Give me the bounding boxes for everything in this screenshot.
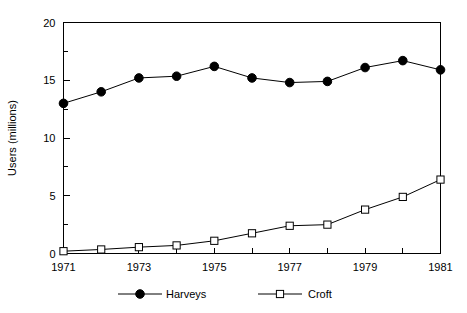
legend-marker	[136, 290, 145, 299]
data-point-marker	[399, 193, 406, 200]
data-point-marker	[211, 237, 218, 244]
x-tick-label: 1973	[127, 261, 151, 273]
x-tick-label: 1977	[277, 261, 301, 273]
legend-item-harveys[interactable]: Harveys	[118, 288, 207, 300]
series-croft	[60, 176, 444, 255]
data-point-marker	[210, 62, 219, 71]
line-chart: 05101520 197119731975197719791981 Users …	[0, 0, 467, 313]
data-point-marker	[60, 248, 67, 255]
data-point-marker	[173, 242, 180, 249]
data-point-marker	[323, 77, 332, 86]
data-point-marker	[437, 176, 444, 183]
series-line	[64, 180, 441, 252]
data-point-marker	[248, 230, 255, 237]
plot-frame	[64, 23, 441, 254]
data-point-marker	[135, 244, 142, 251]
data-point-marker	[248, 74, 257, 83]
chart-legend: HarveysCroft	[118, 288, 332, 300]
data-point-marker	[98, 246, 105, 253]
legend-item-croft[interactable]: Croft	[258, 288, 332, 300]
y-axis: 05101520	[43, 17, 69, 260]
legend-marker	[276, 290, 283, 297]
x-tick-label: 1979	[353, 261, 377, 273]
data-point-marker	[361, 63, 370, 72]
data-point-marker	[362, 206, 369, 213]
data-point-marker	[286, 222, 293, 229]
y-tick-label: 20	[43, 17, 55, 29]
chart-svg: 05101520 197119731975197719791981 Users …	[0, 0, 467, 313]
data-point-marker	[285, 78, 294, 87]
data-point-marker	[324, 221, 331, 228]
y-tick-label: 15	[43, 74, 55, 86]
y-tick-label: 5	[49, 190, 55, 202]
legend-label: Croft	[308, 288, 332, 300]
series-layer	[59, 56, 445, 254]
data-point-marker	[399, 56, 408, 65]
series-harveys	[59, 56, 445, 107]
y-axis-title: Users (millions)	[6, 100, 18, 176]
x-axis: 197119731975197719791981	[51, 248, 452, 273]
data-point-marker	[172, 72, 181, 81]
y-tick-label: 10	[43, 132, 55, 144]
data-point-marker	[436, 66, 445, 75]
legend-label: Harveys	[166, 288, 207, 300]
x-tick-label: 1971	[51, 261, 75, 273]
x-tick-label: 1975	[202, 261, 226, 273]
plot-border	[64, 23, 441, 254]
x-tick-label: 1981	[428, 261, 452, 273]
data-point-marker	[135, 74, 144, 83]
data-point-marker	[59, 99, 68, 108]
data-point-marker	[97, 88, 106, 97]
y-tick-label: 0	[49, 248, 55, 260]
